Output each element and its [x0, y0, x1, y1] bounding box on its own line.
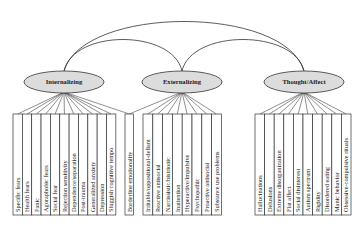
item-box-externalizing: Proactive antisocial [202, 114, 212, 215]
loading-line [260, 92, 304, 114]
item-box-externalizing: Hyperactive/impulsive [182, 114, 192, 215]
item-label: Agoraphobic fears [42, 165, 49, 212]
factor-internalizing: Internalizing [24, 71, 104, 93]
item-box-internalizing: Post-trauma [78, 114, 87, 215]
item-box-thought-affect: Hallucinations [255, 114, 265, 215]
item-label: Hyperactive/impulsive [183, 154, 190, 212]
item-label: Manic behavior [333, 171, 340, 212]
item-label: Rejection sensitivity [61, 160, 68, 212]
item-label: Panic [33, 198, 40, 212]
loading-line [304, 92, 346, 114]
factor-label: Externalizing [163, 78, 202, 85]
factor-label: Internalizing [46, 78, 83, 85]
item-label: Narcissistic/histrionic [164, 157, 171, 212]
item-label: Substance use problems [213, 151, 220, 212]
item-box-externalizing: Inattention [172, 114, 182, 215]
item-box-thought-affect: Delusions [265, 114, 275, 215]
item-label: Sluggish cognitive tempo [107, 148, 114, 212]
item-box-internalizing: Rejection sensitivity [60, 114, 69, 215]
item-box-internalizing: Dependence/separation [69, 114, 78, 215]
shared-item-box: Borderline emotionality [125, 114, 134, 215]
item-label: Social fear [51, 184, 58, 212]
item-label: Post-trauma [79, 181, 86, 212]
item-label: Hallucinations [256, 175, 263, 212]
item-box-externalizing: Narcissistic/histrionic [163, 114, 173, 215]
factor-label: Thought/Affect [282, 78, 326, 85]
item-label: Obsessive-compulsive rituals [342, 137, 349, 212]
item-label: Flat affect [285, 186, 292, 212]
item-box-internalizing: Depression [97, 114, 106, 215]
cross-loading-line [129, 92, 182, 114]
item-label: Borderline emotionality [126, 151, 133, 212]
item-box-thought-affect: Autism spectrum [303, 114, 313, 215]
item-label: Reactive antisocial [154, 164, 161, 212]
item-label: Psychopathic [193, 178, 200, 212]
correlation-arc-internalizing-thought-affect [64, 22, 304, 72]
item-label: Autism spectrum [304, 169, 311, 212]
item-label: Disordered eating [323, 166, 330, 212]
loading-line [148, 92, 182, 114]
item-label: Depression [98, 183, 105, 212]
loading-line [46, 92, 64, 114]
item-label: Rigidity [314, 191, 321, 212]
item-box-internalizing: Sluggish cognitive tempo [107, 114, 116, 215]
item-label: Dependence/separation [70, 152, 77, 212]
item-label: Health fears [23, 181, 30, 212]
item-box-externalizing: Substance use problems [212, 114, 222, 215]
item-box-thought-affect: Rigidity [313, 114, 323, 215]
loading-line [27, 92, 64, 114]
loading-line [279, 92, 304, 114]
item-label: Inattention [174, 184, 181, 212]
item-box-thought-affect: Social disinterest [293, 114, 303, 215]
item-box-internalizing: Specific fears [13, 114, 22, 215]
hierarchical-model-diagram: Specific fearsHealth fearsPanicAgoraphob… [0, 0, 362, 227]
loading-line [64, 92, 74, 114]
item-box-thought-affect: Manic behavior [332, 114, 342, 215]
item-label: Delusions [266, 186, 273, 212]
loading-line [182, 92, 217, 114]
item-box-internalizing: Health fears [22, 114, 31, 215]
item-box-internalizing: Social fear [50, 114, 59, 215]
loading-line [304, 92, 337, 114]
item-label: Irritable/oppositional-defiant [144, 139, 151, 212]
loading-line [289, 92, 304, 114]
item-box-externalizing: Reactive antisocial [153, 114, 163, 215]
factor-thought-affect: Thought/Affect [264, 71, 344, 93]
item-box-internalizing: Generalized anxiety [88, 114, 97, 215]
item-box-internalizing: Panic [32, 114, 41, 215]
factor-externalizing: Externalizing [142, 71, 222, 93]
item-label: Proactive antisocial [203, 162, 210, 212]
item-label: Social disinterest [294, 169, 301, 212]
item-box-thought-affect: Disordered eating [322, 114, 332, 215]
item-box-thought-affect: Obsessive-compulsive rituals [341, 114, 351, 215]
item-box-thought-affect: Extreme disorganization [274, 114, 284, 215]
item-box-internalizing: Agoraphobic fears [41, 114, 50, 215]
loading-line [64, 92, 111, 114]
item-box-externalizing: Psychopathic [192, 114, 202, 215]
item-box-thought-affect: Flat affect [284, 114, 294, 215]
item-label: Specific fears [14, 177, 21, 212]
item-label: Generalized anxiety [89, 161, 96, 212]
correlation-arc-externalizing-thought-affect [182, 40, 304, 72]
item-box-externalizing: Irritable/oppositional-defiant [143, 114, 153, 215]
correlation-arc-internalizing-externalizing [64, 40, 182, 72]
item-label: Extreme disorganization [275, 150, 282, 212]
